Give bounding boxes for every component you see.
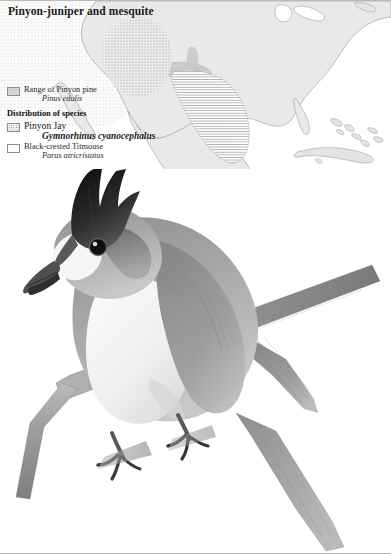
- legend-heading-distribution: Distribution of species: [7, 109, 132, 118]
- legend-scientific-pinyon-jay: Gymnorhinus cyanocephalus: [42, 131, 155, 142]
- distribution-map-panel: Pinyon-juniper and mesquite Range of Pin…: [0, 1, 391, 173]
- legend-row-pinyon-pine: Range of Pinyon pine Pinus edulis: [7, 85, 132, 104]
- legend-scientific-black-crested-titmouse: Parus atricristatus: [42, 151, 104, 160]
- map-legend: Range of Pinyon pine Pinus edulis Distri…: [7, 85, 132, 160]
- eye-highlight: [93, 242, 98, 247]
- legend-row-pinyon-jay: Pinyon Jay Gymnorhinus cyanocephalus: [7, 121, 132, 142]
- legend-row-black-crested-titmouse: Black-crested Titmouse Parus atricristat…: [7, 142, 132, 161]
- legend-common-pinyon-jay: Pinyon Jay: [24, 121, 155, 132]
- legend-text-pinyon-jay: Pinyon Jay Gymnorhinus cyanocephalus: [24, 121, 155, 142]
- bird-illustration-panel: Black-crested Titmouse Parus atricristat…: [0, 169, 391, 554]
- legend-swatch-pinyon-pine: [7, 87, 20, 96]
- legend-text-pinyon-pine: Range of Pinyon pine Pinus edulis: [24, 85, 97, 104]
- legend-swatch-pinyon-jay: [7, 123, 20, 132]
- legend-text-black-crested-titmouse: Black-crested Titmouse Parus atricristat…: [24, 142, 104, 161]
- legend-swatch-black-crested-titmouse: [7, 144, 20, 153]
- black-crested-titmouse-illustration: [0, 169, 391, 554]
- legend-common-black-crested-titmouse: Black-crested Titmouse: [24, 142, 104, 151]
- legend-common-pinyon-pine: Range of Pinyon pine: [24, 85, 97, 94]
- great-lake-superior: [275, 5, 292, 22]
- page-title: Pinyon-juniper and mesquite: [8, 5, 154, 17]
- legend-scientific-pinyon-pine: Pinus edulis: [42, 94, 97, 103]
- field-guide-page: Pinyon-juniper and mesquite Range of Pin…: [0, 0, 391, 554]
